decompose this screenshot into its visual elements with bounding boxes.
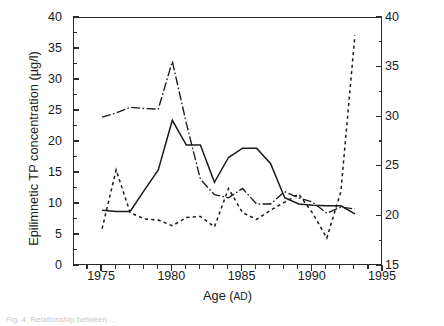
y-tick-left-35 bbox=[73, 47, 79, 48]
y-tick-right-27.5 bbox=[379, 140, 383, 141]
plot-area bbox=[73, 17, 382, 265]
x-tick-1992 bbox=[339, 265, 340, 269]
x-tick-1987 bbox=[269, 265, 270, 269]
x-tick-1981 bbox=[185, 265, 186, 269]
x-tick-label-1975: 1975 bbox=[79, 270, 123, 283]
y-tick-right-30 bbox=[376, 116, 382, 117]
x-tick-1976 bbox=[115, 265, 116, 269]
y-tick-label-left-5: 5 bbox=[55, 228, 62, 241]
y-tick-left-20 bbox=[73, 140, 79, 141]
y-tick-right-25 bbox=[376, 165, 382, 166]
x-tick-1984 bbox=[227, 265, 228, 269]
y-tick-label-left-25: 25 bbox=[48, 104, 62, 117]
x-tick-1988 bbox=[283, 265, 284, 269]
x-tick-label-1980: 1980 bbox=[149, 270, 193, 283]
x-tick-1993 bbox=[353, 265, 354, 269]
y-tick-left-10 bbox=[73, 202, 79, 203]
series-line-sediment-p bbox=[102, 35, 355, 238]
y-tick-right-20 bbox=[376, 215, 382, 216]
x-tick-1979 bbox=[157, 265, 158, 269]
y-axis-left-title: Epilimnetic TP concentration (µg/l) bbox=[26, 24, 41, 274]
x-tick-1983 bbox=[213, 265, 214, 269]
x-tick-label-1985: 1985 bbox=[220, 270, 264, 283]
y-tick-left-17.5 bbox=[73, 156, 77, 157]
x-axis-title-units: AD bbox=[234, 291, 248, 302]
y-tick-right-32.5 bbox=[379, 91, 383, 92]
y-tick-left-22.5 bbox=[73, 125, 77, 126]
x-tick-1989 bbox=[297, 265, 298, 269]
x-axis-title-close: ) bbox=[248, 288, 252, 303]
y-tick-label-right-30: 30 bbox=[385, 110, 399, 123]
x-tick-1977 bbox=[129, 265, 130, 269]
y-tick-left-30 bbox=[73, 78, 79, 79]
y-tick-left-15 bbox=[73, 171, 79, 172]
y-tick-left-12.5 bbox=[73, 187, 77, 188]
y-tick-right-35 bbox=[376, 66, 382, 67]
x-tick-1974 bbox=[86, 265, 87, 269]
x-tick-1986 bbox=[255, 265, 256, 269]
series-group bbox=[102, 35, 355, 238]
y-tick-left-2.5 bbox=[73, 249, 77, 250]
y-tick-left-25 bbox=[73, 109, 79, 110]
y-tick-label-left-15: 15 bbox=[48, 166, 62, 179]
y-tick-label-left-10: 10 bbox=[48, 197, 62, 210]
x-tick-1978 bbox=[143, 265, 144, 269]
y-tick-right-40 bbox=[376, 16, 382, 17]
figure-caption: Fig. 4. Relationship between ... bbox=[6, 315, 436, 326]
y-tick-label-right-20: 20 bbox=[385, 209, 399, 222]
y-tick-right-37.5 bbox=[379, 41, 383, 42]
y-tick-right-22.5 bbox=[379, 190, 383, 191]
y-tick-label-left-0: 0 bbox=[55, 259, 62, 272]
y-tick-label-right-40: 40 bbox=[385, 11, 399, 24]
chart-svg bbox=[74, 18, 383, 266]
x-tick-label-1990: 1990 bbox=[290, 270, 334, 283]
y-tick-left-0 bbox=[73, 264, 79, 265]
y-tick-right-17.5 bbox=[379, 240, 383, 241]
y-tick-label-right-25: 25 bbox=[385, 159, 399, 172]
y-tick-label-left-20: 20 bbox=[48, 135, 62, 148]
x-tick-1991 bbox=[325, 265, 326, 269]
x-tick-label-1995: 1995 bbox=[360, 270, 404, 283]
series-line-tp-monitored bbox=[102, 120, 355, 214]
x-tick-1994 bbox=[367, 265, 368, 269]
y-tick-left-7.5 bbox=[73, 218, 77, 219]
y-tick-label-left-35: 35 bbox=[48, 42, 62, 55]
figure-container: 0510152025303540152025303540197519801985… bbox=[0, 0, 444, 326]
y-tick-label-left-30: 30 bbox=[48, 73, 62, 86]
y-tick-left-40 bbox=[73, 16, 79, 17]
y-tick-left-27.5 bbox=[73, 94, 77, 95]
y-tick-left-5 bbox=[73, 233, 79, 234]
y-tick-label-right-35: 35 bbox=[385, 60, 399, 73]
x-axis-title: Age (AD) bbox=[73, 288, 382, 303]
x-axis-title-main: Age ( bbox=[203, 288, 234, 303]
y-tick-left-32.5 bbox=[73, 63, 77, 64]
y-tick-label-left-40: 40 bbox=[48, 11, 62, 24]
x-tick-1982 bbox=[199, 265, 200, 269]
y-tick-left-37.5 bbox=[73, 32, 77, 33]
